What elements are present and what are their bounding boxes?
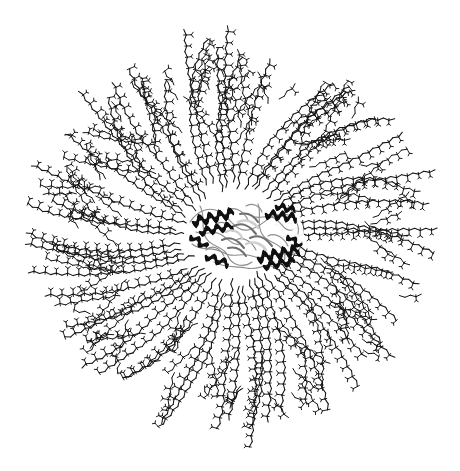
protein-polymer-conjugate-illustration <box>0 0 460 471</box>
protein-structure-layer <box>184 196 304 272</box>
figure-root <box>0 0 460 471</box>
